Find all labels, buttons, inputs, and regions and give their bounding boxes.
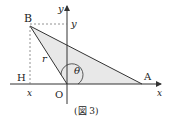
label-o: O <box>55 89 63 100</box>
label-theta: θ <box>74 65 80 76</box>
label-x-axis: x <box>157 88 162 98</box>
label-y-coord: y <box>70 18 77 29</box>
label-x-coord: x <box>27 88 32 98</box>
label-y-axis: y <box>57 3 64 14</box>
figure-caption: (図 3) <box>74 106 99 116</box>
label-h: H <box>17 72 26 83</box>
label-b: B <box>24 12 32 25</box>
label-r: r <box>42 53 48 64</box>
figure-3-diagram: B y y r θ H x O A x (図 3) <box>0 0 175 130</box>
label-a: A <box>143 71 152 82</box>
